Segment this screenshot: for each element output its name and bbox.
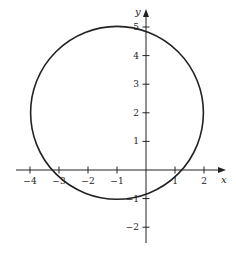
x-axis-label: x [221, 174, 227, 185]
y-tick-label: −2 [126, 222, 139, 232]
x-tick-label: −2 [81, 176, 94, 186]
y-tick-label: 2 [133, 108, 139, 118]
axes [16, 9, 226, 243]
y-tick-label: 5 [133, 22, 139, 32]
y-axis-label: y [134, 6, 141, 17]
y-tick-label: 3 [133, 79, 139, 89]
y-axis-arrow-icon [143, 9, 149, 17]
y-tick-label: 1 [133, 136, 139, 146]
x-axis-arrow-icon [218, 167, 226, 173]
x-tick-label: −1 [110, 176, 123, 186]
coordinate-plane: −4−3−2−112−2−112345 x y [0, 0, 236, 255]
x-tick-label: 2 [201, 176, 207, 186]
y-tick-label: 4 [133, 51, 139, 61]
tick-marks [30, 27, 204, 227]
x-tick-label: −4 [23, 176, 37, 186]
